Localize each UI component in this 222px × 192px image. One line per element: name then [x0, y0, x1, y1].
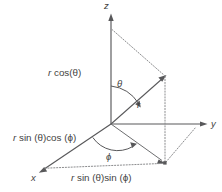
xy-plane-point-marker — [163, 161, 166, 164]
z-axis-label: z — [104, 1, 109, 11]
z-to-point-dotted-line — [112, 30, 165, 76]
plane-to-y-axis-dotted-line — [166, 127, 196, 162]
x-component-label: r sin (θ)cos (ϕ) — [13, 133, 76, 143]
y-axis-arrowhead — [200, 121, 208, 126]
z-component-expression: cos(θ) — [51, 67, 81, 78]
x-axis-to-plane-dotted-line — [45, 163, 164, 168]
theta-angle-arc — [111, 86, 139, 103]
x-axis-line — [44, 124, 112, 170]
spherical-coordinates-diagram: z y x θ ϕ r r cos(θ) r sin (θ)cos (ϕ) r … — [0, 0, 222, 192]
diagram-canvas — [0, 0, 222, 192]
axis-group — [39, 14, 208, 173]
xy-projection-group — [111, 124, 166, 164]
r-vector-label: r — [137, 100, 140, 110]
xy-projection-line — [111, 124, 162, 161]
construction-lines-group — [45, 30, 196, 169]
y-component-expression: sin (θ)sin (ϕ) — [74, 172, 131, 183]
y-component-label: r sin (θ)sin (ϕ) — [71, 173, 131, 183]
z-axis-arrowhead — [108, 14, 113, 22]
z-component-label: r cos(θ) — [48, 68, 81, 78]
x-component-expression: sin (θ)cos (ϕ) — [16, 132, 76, 143]
y-axis-label: y — [211, 119, 216, 129]
theta-angle-label: θ — [117, 79, 122, 89]
phi-angle-arc — [93, 138, 133, 151]
phi-angle-label: ϕ — [106, 152, 111, 162]
x-axis-label: x — [31, 173, 36, 183]
